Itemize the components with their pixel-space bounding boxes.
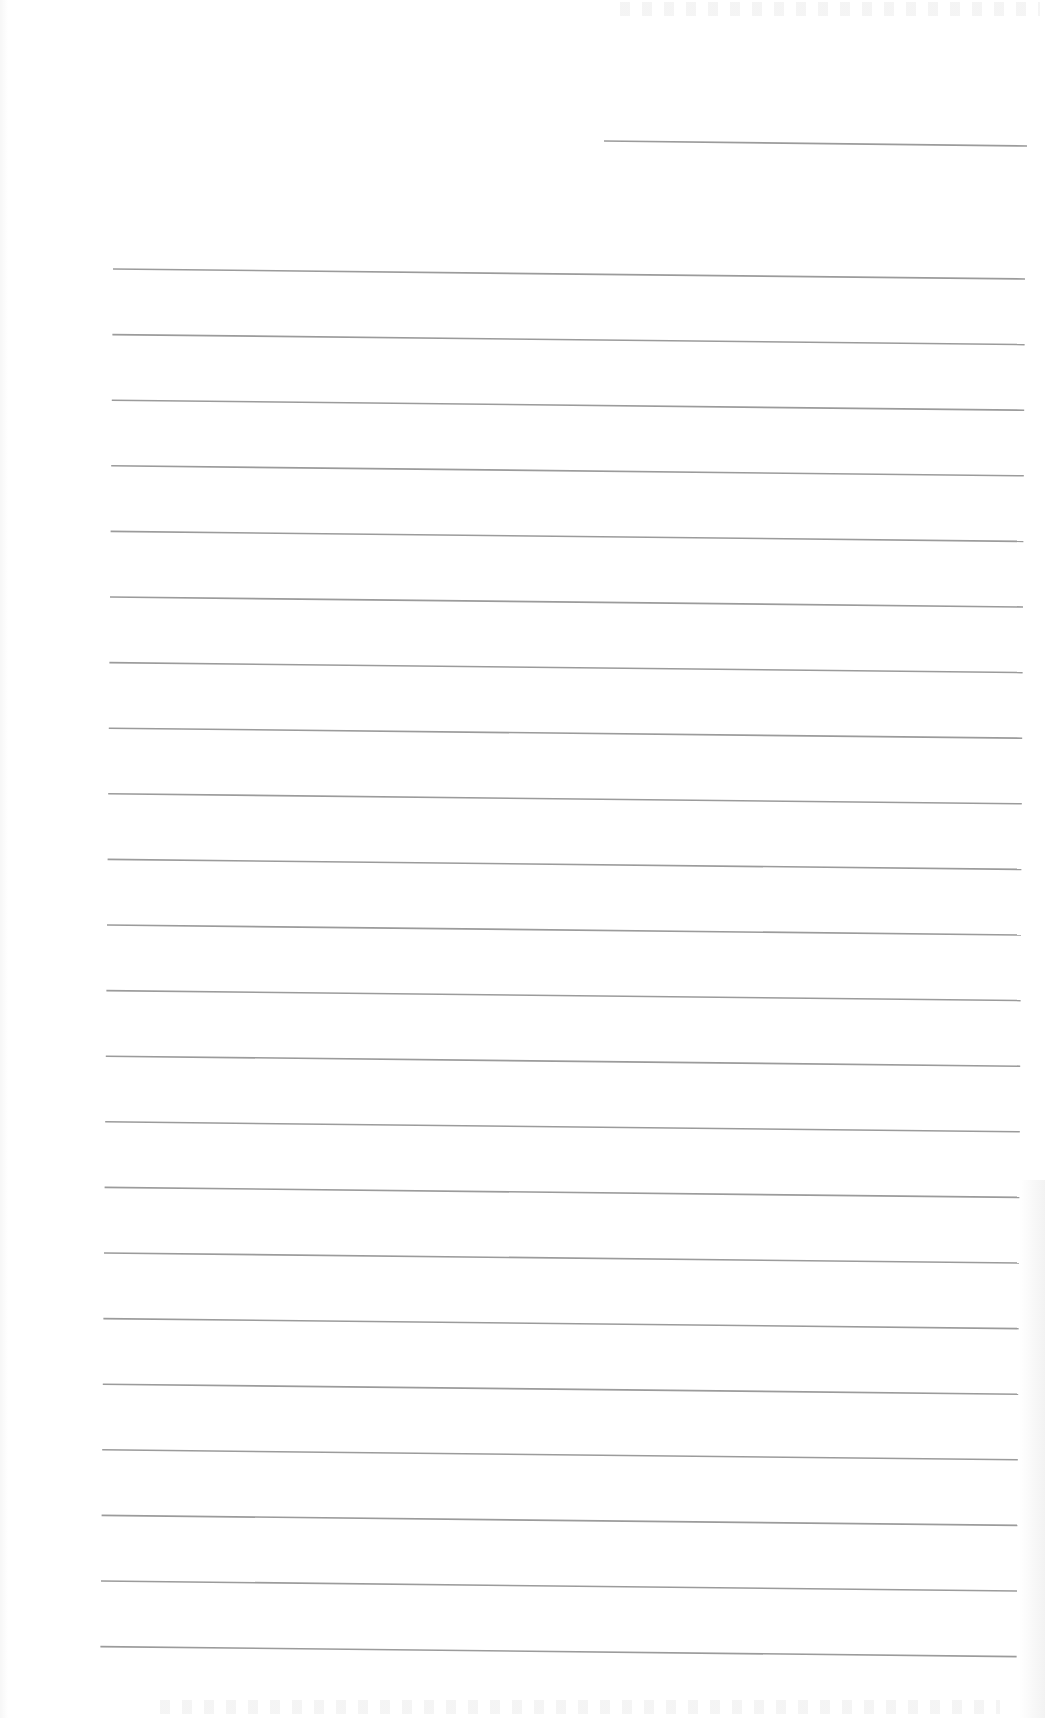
ruled-line xyxy=(105,1122,1020,1132)
ruled-line xyxy=(100,1647,1016,1657)
ruled-line xyxy=(106,991,1020,1001)
ruled-line xyxy=(111,531,1024,541)
ruled-line xyxy=(110,597,1023,607)
ruled-line xyxy=(101,1581,1017,1591)
ruled-line xyxy=(102,1450,1018,1460)
ruled-line xyxy=(112,400,1024,410)
ruled-line xyxy=(107,925,1021,935)
ruled-line xyxy=(103,1319,1018,1329)
ruled-line xyxy=(109,663,1022,673)
ruled-line xyxy=(108,859,1022,869)
ruled-line xyxy=(108,794,1022,804)
lined-paper-page xyxy=(0,0,1045,1718)
date-line xyxy=(604,141,1027,146)
ruled-line xyxy=(113,269,1025,279)
ruled-line xyxy=(109,728,1022,738)
ruled-lines xyxy=(0,0,1045,1718)
ruled-line xyxy=(102,1515,1018,1525)
ruled-line xyxy=(106,1056,1020,1066)
ruled-line xyxy=(103,1384,1018,1394)
ruled-line-group xyxy=(100,269,1025,1657)
ruled-line xyxy=(111,466,1024,476)
ruled-line xyxy=(112,335,1024,345)
ruled-line xyxy=(105,1187,1020,1197)
ruled-line xyxy=(104,1253,1019,1263)
